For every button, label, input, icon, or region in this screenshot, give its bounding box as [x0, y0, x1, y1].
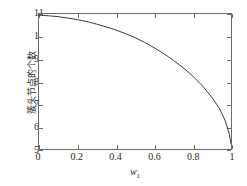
plot-area	[38, 13, 232, 150]
x-tick-mark	[232, 145, 233, 149]
y-tick-mark-right	[227, 150, 231, 151]
x-tick-label-0-4: 0.4	[109, 152, 122, 162]
x-tick-label-0-2: 0.2	[71, 152, 84, 162]
figure-canvas: 簇头节点的个数 11 10 9 8 7 6 5 0 0.2 0.4 0.6 0.…	[0, 0, 247, 186]
x-tick-label-0: 0	[36, 152, 41, 162]
x-tick-label-0-6: 0.6	[148, 152, 161, 162]
x-tick-label-1: 1	[230, 152, 235, 162]
x-axis-label-base: w	[130, 166, 137, 177]
y-tick-mark	[39, 150, 43, 151]
x-tick-mark-top	[232, 14, 233, 18]
data-series-line	[39, 15, 231, 144]
x-axis-label: w1	[130, 167, 140, 180]
x-tick-label-0-8: 0.8	[187, 152, 200, 162]
chart-curve-canvas	[39, 14, 231, 149]
x-axis-label-subscript: 1	[137, 172, 141, 180]
